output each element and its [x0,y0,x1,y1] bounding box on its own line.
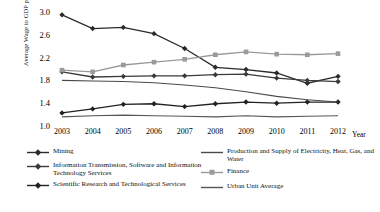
data-point [274,101,279,106]
data-point [59,12,64,17]
series-line [62,15,338,83]
legend-item[interactable]: Finance [200,166,380,178]
data-point [213,72,218,77]
y-tick-label: 2.2 [24,54,50,63]
data-point [121,63,126,68]
data-point [121,25,126,30]
series-line [62,80,338,102]
legend-marker-square-icon [200,167,224,178]
y-tick-label: 1.8 [24,76,50,85]
legend-item-label: Production and Supply of Electricity, He… [227,146,380,163]
data-point [213,101,218,106]
data-point [90,106,95,111]
plot-area [58,8,350,130]
data-point [274,70,279,75]
data-point [335,79,340,84]
chart-legend: MiningInformation Transmission, Software… [0,146,380,208]
data-point [121,102,126,107]
legend-item-label: Information Transmission, Software and I… [53,160,204,177]
series-scientific-research-and-technological-se [59,99,340,115]
data-point [305,52,310,57]
data-point [152,60,157,65]
legend-item-label: Mining [53,146,74,155]
y-tick-label: 2.6 [24,31,50,40]
x-tick-label: 2003 [47,128,77,136]
x-tick-label: 2011 [292,128,322,136]
series-information-transmission-software-and-in [59,69,340,84]
legend-marker-diamond-icon [26,147,50,158]
series-urban-unit-average [62,115,338,117]
series-line [62,72,338,82]
legend-marker-diamond-icon [26,180,50,191]
data-point [121,74,126,79]
legend-column-left: MiningInformation Transmission, Software… [26,146,204,193]
legend-item[interactable]: Urban Unit Average [200,181,380,193]
series-line [62,115,338,117]
x-tick-label: 2004 [78,128,108,136]
data-point [335,74,340,79]
legend-item-label: Urban Unit Average [227,181,283,190]
data-point [90,26,95,31]
legend-marker-diamond-icon [26,161,50,172]
legend-item[interactable]: Production and Supply of Electricity, He… [200,146,380,163]
data-point [151,31,156,36]
x-tick-label: 2009 [231,128,261,136]
data-point [182,73,187,78]
data-point [59,110,64,115]
x-tick-label: 2005 [108,128,138,136]
data-point [213,52,218,57]
y-axis-tick-labels: 3.02.62.21.81.41.0 [22,0,50,140]
legend-item-label: Finance [227,166,249,175]
legend-item-label: Scientific Research and Technological Se… [53,179,186,188]
data-point [336,51,341,56]
x-axis-label: Year [352,130,366,139]
data-point [90,70,95,75]
x-axis-tick-labels: 2003200420052006200720082009201020112012 [0,128,380,142]
x-tick-label: 2006 [139,128,169,136]
x-tick-label: 2010 [262,128,292,136]
data-point [182,104,187,109]
data-point [90,74,95,79]
series-line [62,102,338,113]
data-point [243,99,248,104]
data-point [244,50,249,55]
series-canvas [58,8,350,130]
series-line [62,52,338,72]
x-tick-label: 2008 [200,128,230,136]
y-tick-label: 3.0 [24,8,50,17]
legend-marker-none-icon [200,147,224,158]
series-finance [60,50,341,75]
y-tick-label: 1.4 [24,99,50,108]
legend-item[interactable]: Scientific Research and Technological Se… [26,179,204,191]
data-point [243,71,248,76]
data-point [274,75,279,80]
data-point [151,73,156,78]
legend-item[interactable]: Information Transmission, Software and I… [26,160,204,177]
chart-figure: Average Wage to GDP per capita 3.02.62.2… [0,0,380,212]
legend-marker-none-icon [200,182,224,193]
legend-item[interactable]: Mining [26,146,204,158]
data-point [60,68,65,73]
x-tick-label: 2012 [323,128,353,136]
data-point [151,101,156,106]
data-point [274,52,279,57]
data-point [182,57,187,62]
legend-column-right: Production and Supply of Electricity, He… [200,146,380,196]
x-tick-label: 2007 [170,128,200,136]
series-production-and-supply-of-electricity-hea [62,80,338,102]
